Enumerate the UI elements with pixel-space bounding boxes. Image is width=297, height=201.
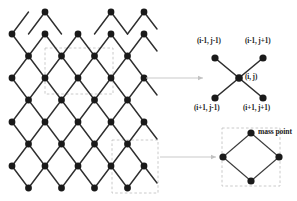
lattice-node (75, 119, 82, 126)
lattice-node (58, 97, 65, 104)
cell-diagram (219, 128, 282, 186)
figure-canvas (0, 0, 297, 201)
lattice-node (141, 163, 148, 170)
lattice-node (25, 53, 32, 60)
mass-point-label: mass point (258, 128, 292, 136)
stencil-label-bottom-left: (i+1, j-1) (194, 105, 219, 112)
dashed-box-cell-region (112, 140, 158, 193)
lattice-edges (12, 12, 157, 188)
stencil-node-top-right (259, 54, 266, 61)
lattice-node (124, 141, 131, 148)
lattice-node (141, 119, 148, 126)
cell-nodes (219, 129, 282, 184)
cell-node-top (247, 129, 254, 136)
lattice-node (42, 163, 49, 170)
lattice-node (91, 97, 98, 104)
lattice-node (108, 163, 115, 170)
lattice-node (25, 185, 32, 192)
lattice-node (25, 141, 32, 148)
lattice-node (42, 119, 49, 126)
stencil-label-top-left: (i-1, j-1) (197, 38, 221, 45)
callout-arrows (146, 78, 216, 157)
lattice-node (91, 141, 98, 148)
lattice-node (108, 75, 115, 82)
stencil-node-bottom-left (211, 94, 218, 101)
lattice-nodes (9, 9, 148, 192)
lattice-node (25, 97, 32, 104)
stencil-label-bottom-right: (i+1, j+1) (243, 105, 270, 112)
lattice-node (91, 53, 98, 60)
lattice-node (124, 53, 131, 60)
lattice-node (9, 31, 16, 38)
lattice-node (58, 185, 65, 192)
lattice-node (124, 185, 131, 192)
lattice-node (108, 31, 115, 38)
lattice-node (108, 119, 115, 126)
dashed-box-stencil-region (45, 48, 113, 94)
stencil-node-bottom-right (259, 94, 266, 101)
cell-node-bottom (247, 177, 254, 184)
stencil-label-center: (i, j) (245, 74, 257, 81)
lattice-node (58, 141, 65, 148)
dashed-box-unit-cell (222, 128, 280, 186)
lattice-node (75, 163, 82, 170)
lattice-node (9, 119, 16, 126)
stencil-diagram (211, 54, 266, 101)
cell-node-right (275, 153, 282, 160)
lattice-node (75, 31, 82, 38)
lattice-node (91, 185, 98, 192)
stencil-node-top-left (211, 54, 218, 61)
stencil-label-top-right: (i-1, j+1) (245, 38, 270, 45)
lattice-node (42, 9, 49, 16)
lattice-node (141, 9, 148, 16)
lattice-node (108, 9, 115, 16)
lattice-node (9, 75, 16, 82)
lattice-node (141, 31, 148, 38)
lattice-node (124, 97, 131, 104)
lattice-node (75, 75, 82, 82)
stencil-node-center (235, 74, 243, 82)
lattice-node (42, 31, 49, 38)
lattice-node (9, 163, 16, 170)
figure-root: (i-1, j-1) (i-1, j+1) (i, j) (i+1, j-1) … (0, 0, 297, 201)
cell-edges (223, 133, 279, 181)
cell-node-left (219, 153, 226, 160)
lattice-node (42, 75, 49, 82)
lattice-node (58, 53, 65, 60)
